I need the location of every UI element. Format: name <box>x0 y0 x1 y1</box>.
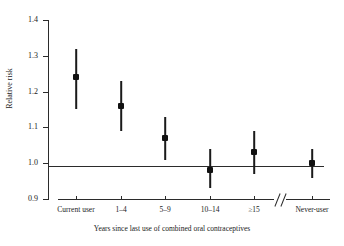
x-axis-category-label: Current user <box>57 205 94 214</box>
reference-line-rr-1 <box>49 166 324 167</box>
axis-break-icon <box>272 193 290 207</box>
relative-risk-forest-chart: 0.91.01.11.21.31.4 Current user1–45–910–… <box>0 0 344 246</box>
x-axis-category-label: 5–9 <box>159 205 170 214</box>
y-axis-tick <box>43 56 48 57</box>
y-axis-tick-label: 1.0 <box>4 159 38 167</box>
y-axis-line <box>48 20 49 200</box>
y-axis-title: Relative risk <box>5 44 14 134</box>
point-estimate-marker <box>118 103 124 109</box>
point-estimate-marker <box>162 135 168 141</box>
x-axis-tick <box>76 196 77 200</box>
y-axis-tick <box>43 199 48 200</box>
x-axis-tick <box>210 196 211 200</box>
y-axis-tick <box>43 92 48 93</box>
x-axis-category-label: 10–14 <box>201 205 220 214</box>
x-axis-line-main <box>58 199 274 200</box>
point-estimate-marker <box>73 74 79 80</box>
y-axis-tick-label: 0.9 <box>4 195 38 203</box>
x-axis-title: Years since last use of combined oral co… <box>0 224 344 233</box>
x-axis-category-label: Never-user <box>295 205 328 214</box>
x-axis-category-label: ≥15 <box>248 205 260 214</box>
x-axis-tick <box>312 196 313 200</box>
point-estimate-marker <box>207 167 213 173</box>
x-axis-tick <box>254 196 255 200</box>
y-axis-tick-label: 1.4 <box>4 16 38 24</box>
y-axis-tick <box>43 127 48 128</box>
x-axis-tick <box>121 196 122 200</box>
y-axis-tick <box>43 163 48 164</box>
x-axis-tick <box>165 196 166 200</box>
point-estimate-marker <box>309 160 315 166</box>
x-axis-line-never-user <box>286 199 330 200</box>
y-axis-tick <box>43 20 48 21</box>
point-estimate-marker <box>251 149 257 155</box>
x-axis-category-label: 1–4 <box>115 205 126 214</box>
